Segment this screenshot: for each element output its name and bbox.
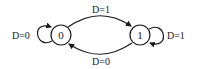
state-1-label: 1: [137, 29, 143, 41]
state-0: 0: [51, 25, 71, 45]
state-1: 1: [130, 25, 150, 45]
transition-0-to-1-label: D=1: [92, 4, 110, 15]
state-0-label: 0: [58, 29, 64, 41]
self-loop-1-label: D=1: [167, 30, 185, 41]
transition-1-to-0: [69, 43, 132, 54]
self-loop-1: [149, 27, 163, 44]
self-loop-0-label: D=0: [12, 30, 30, 41]
self-loop-0: [38, 26, 52, 43]
transition-1-to-0-label: D=0: [92, 56, 110, 67]
transition-0-to-1: [68, 16, 131, 27]
state-diagram: 0 1 D=0 D=1 D=1 D=0: [0, 0, 197, 69]
